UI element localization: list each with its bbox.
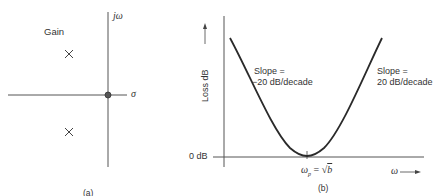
caption-b: (b) <box>318 183 328 193</box>
jw-axis-label: jω <box>113 11 123 21</box>
omega-p-label: ωp = √b <box>301 165 332 179</box>
loss-db-text: Loss dB <box>200 69 210 102</box>
omega-arrow-head <box>415 170 421 174</box>
left-slope-label-line1: Slope = <box>254 66 285 76</box>
pole-marker-upper <box>65 50 73 58</box>
zero-db-label: 0 dB <box>189 151 208 161</box>
omega-axis-label: ω <box>391 166 398 176</box>
zero-marker <box>105 92 111 98</box>
loss-db-axis-label: Loss dB <box>200 69 210 102</box>
equals-sqrt: = √ <box>311 164 327 175</box>
sigma-axis-label: σ <box>131 89 136 99</box>
diagram-canvas <box>0 0 442 196</box>
caption-a: (a) <box>83 188 93 196</box>
right-slope-label-line1: Slope = <box>377 66 408 76</box>
pole-marker-lower <box>65 128 73 136</box>
right-slope-label-line2: 20 dB/decade <box>377 77 433 87</box>
left-slope-label-line2: −20 dB/decade <box>252 77 313 87</box>
b-variable: b <box>327 164 332 175</box>
loss-curve <box>230 38 382 156</box>
gain-label: Gain <box>44 27 64 37</box>
loss-arrow-head <box>203 23 207 29</box>
omega-symbol: ω <box>301 164 308 175</box>
